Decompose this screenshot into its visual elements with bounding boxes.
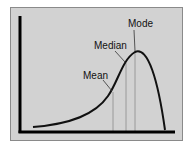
mean-label: Mean (83, 70, 108, 81)
median-label: Median (94, 40, 127, 51)
skewed-distribution-diagram: Mode Median Mean (0, 0, 189, 145)
mode-label: Mode (128, 18, 153, 29)
